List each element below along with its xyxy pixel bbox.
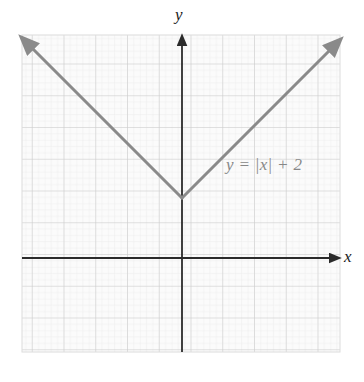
x-axis-label: x	[344, 248, 352, 265]
graph-figure: y x y = |x| + 2	[0, 0, 364, 382]
coordinate-plane-svg	[0, 0, 364, 382]
equation-annotation: y = |x| + 2	[226, 156, 302, 173]
grid-background	[22, 35, 340, 352]
y-axis-label: y	[175, 6, 183, 23]
